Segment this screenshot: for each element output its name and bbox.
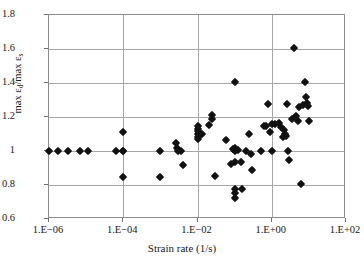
data-point	[266, 128, 274, 136]
data-point	[178, 161, 186, 169]
data-point	[119, 172, 127, 180]
data-point	[211, 171, 219, 179]
data-point	[256, 147, 264, 155]
data-point	[264, 100, 272, 108]
x-axis-tick	[197, 218, 198, 222]
data-point	[119, 128, 127, 136]
data-point	[156, 147, 164, 155]
y-axis-tick-label: 0.8	[0, 179, 15, 189]
data-point	[290, 44, 298, 52]
data-point	[296, 180, 304, 188]
y-axis-title-sub-s: s	[16, 54, 25, 57]
data-point	[245, 130, 253, 138]
x-axis-tick	[345, 218, 346, 222]
data-point	[248, 165, 256, 173]
y-axis-tick-label: 1	[0, 145, 15, 155]
plot-area	[48, 14, 345, 218]
data-point	[230, 78, 238, 86]
data-point	[284, 147, 292, 155]
x-axis-tick	[122, 218, 123, 222]
x-axis-tick	[271, 218, 272, 222]
data-point	[237, 158, 245, 166]
data-point	[45, 147, 53, 155]
y-axis-tick-label: 1.2	[0, 111, 15, 121]
data-point	[268, 147, 276, 155]
data-point	[83, 147, 91, 155]
data-point	[53, 147, 61, 155]
chart-container: max εd/max εs 0.60.811.21.41.61.8 1.E−06…	[0, 0, 364, 262]
data-point	[64, 147, 72, 155]
data-point	[222, 136, 230, 144]
scatter-markers	[49, 15, 344, 217]
x-axis-tick-label: 1.E−06	[13, 224, 83, 235]
x-axis-tick-label: 1.E+00	[236, 224, 306, 235]
x-axis-tick-label: 1.E−04	[87, 224, 157, 235]
y-axis-title-sub-d: d	[16, 85, 25, 89]
data-point	[305, 117, 313, 125]
data-point	[119, 147, 127, 155]
y-axis-tick-label: 0.6	[0, 213, 15, 223]
y-axis-tick-label: 1.4	[0, 77, 15, 87]
x-axis-tick-label: 1.E+02	[310, 224, 364, 235]
x-axis-title: Strain rate (1/s)	[0, 242, 364, 254]
data-point	[156, 172, 164, 180]
data-point	[285, 156, 293, 164]
x-axis-tick-label: 1.E−02	[162, 224, 232, 235]
data-point	[283, 100, 291, 108]
y-axis-tick-label: 1.6	[0, 43, 15, 53]
y-axis-tick-label: 1.8	[0, 9, 15, 19]
x-axis-tick	[48, 218, 49, 222]
data-point	[301, 78, 309, 86]
